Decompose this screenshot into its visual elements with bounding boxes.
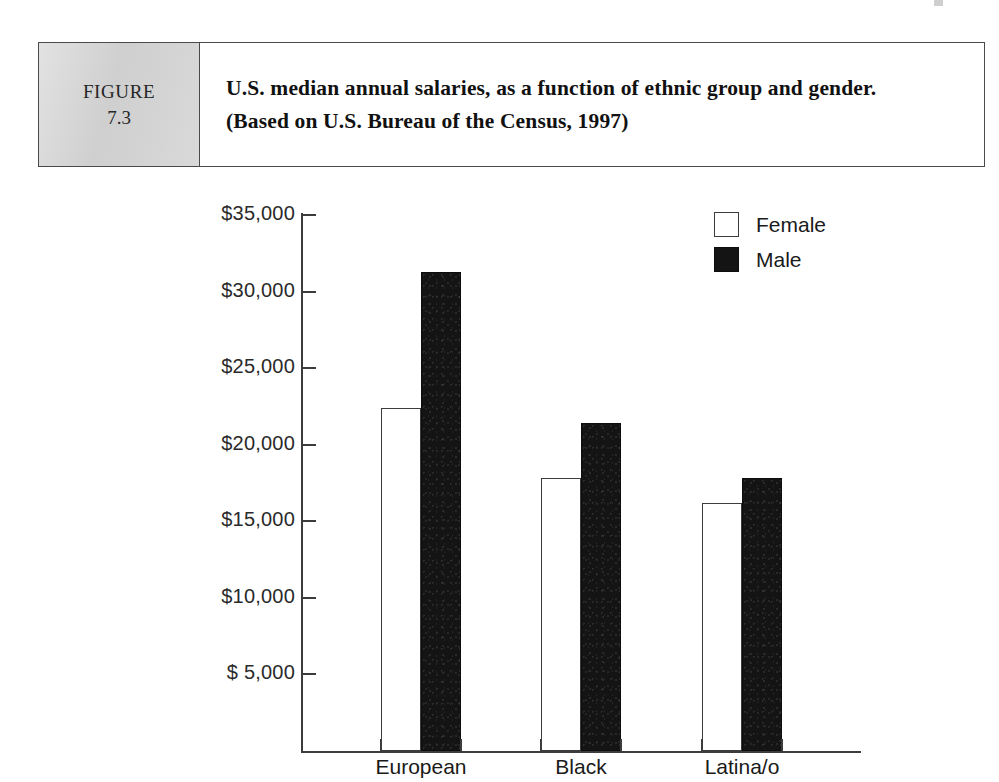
- y-tick-label: $20,000: [175, 432, 295, 455]
- x-category-label: Black: [501, 755, 661, 779]
- legend-label-female: Female: [756, 213, 826, 237]
- y-tick-mark: [303, 673, 316, 675]
- y-tick-mark: [303, 291, 316, 293]
- x-tick-mark: [540, 739, 542, 752]
- x-tick-mark: [460, 739, 462, 752]
- y-axis-line: [301, 213, 303, 753]
- x-category-label: Latina/o: [662, 755, 822, 779]
- y-tick-mark: [303, 444, 316, 446]
- y-tick-label: $35,000: [175, 202, 295, 225]
- y-tick-label: $10,000: [175, 585, 295, 608]
- bar-latina-o-female: [702, 503, 742, 751]
- y-tick-label: $ 5,000: [175, 661, 295, 684]
- x-tick-mark: [380, 739, 382, 752]
- bar-latina-o-male: [742, 478, 782, 751]
- y-tick-mark: [303, 597, 316, 599]
- y-tick-mark: [303, 520, 316, 522]
- x-tick-mark: [620, 739, 622, 752]
- bar-black-male: [581, 423, 621, 751]
- y-tick-label: $15,000: [175, 508, 295, 531]
- legend-swatch-male-icon: [714, 247, 739, 272]
- page-edge-speck: [934, 0, 943, 6]
- chart-legend: Female Male: [714, 207, 826, 277]
- y-tick-label: $30,000: [175, 279, 295, 302]
- figure-caption-box: FIGURE 7.3 U.S. median annual salaries, …: [38, 42, 985, 167]
- bar-european-male: [421, 272, 461, 751]
- x-category-label: European: [341, 755, 501, 779]
- bar-european-female: [381, 408, 421, 751]
- figure-caption-text: U.S. median annual salaries, as a functi…: [226, 72, 926, 137]
- figure-tag-number: 7.3: [107, 105, 131, 131]
- legend-item-female: Female: [714, 207, 826, 242]
- figure-tag-word: FIGURE: [83, 79, 155, 105]
- y-tick-mark: [303, 214, 316, 216]
- y-tick-mark: [303, 367, 316, 369]
- y-tick-label: $25,000: [175, 355, 295, 378]
- figure-caption-text-area: U.S. median annual salaries, as a functi…: [200, 43, 984, 166]
- figure-number-tag: FIGURE 7.3: [39, 43, 200, 166]
- x-tick-mark: [701, 739, 703, 752]
- x-tick-mark: [781, 739, 783, 752]
- legend-swatch-female-icon: [714, 212, 739, 237]
- x-axis-line: [301, 751, 861, 753]
- bar-black-female: [541, 478, 581, 751]
- legend-item-male: Male: [714, 242, 826, 277]
- legend-label-male: Male: [756, 248, 802, 272]
